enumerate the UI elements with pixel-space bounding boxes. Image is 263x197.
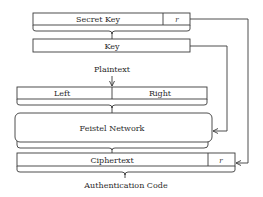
left-right-box: Left Right xyxy=(17,87,207,113)
right-label: Right xyxy=(149,89,172,98)
plaintext-label: Plaintext xyxy=(94,65,131,74)
key-box: Key xyxy=(33,39,190,52)
left-label: Left xyxy=(54,89,71,98)
secret-key-label: Secret Key xyxy=(76,15,121,24)
feistel-label: Feistel Network xyxy=(80,124,145,133)
ciphertext-label: Ciphertext xyxy=(90,156,134,165)
feistel-network-box: Feistel Network xyxy=(15,113,212,153)
feistel-mac-diagram: Secret Key r Key Plaintext Left Right Fe… xyxy=(0,0,263,197)
ciphertext-box: Ciphertext r xyxy=(17,153,235,178)
left-right-brace xyxy=(17,99,207,108)
key-label: Key xyxy=(104,42,119,51)
authentication-code-label: Authentication Code xyxy=(83,181,168,190)
secret-key-box: Secret Key r xyxy=(33,13,190,39)
secret-key-brace xyxy=(33,25,190,34)
ciphertext-brace xyxy=(17,166,235,175)
